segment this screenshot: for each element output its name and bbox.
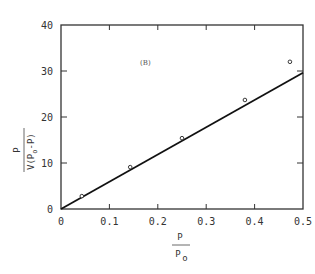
y-axis-label: P V(Po-P)	[12, 128, 39, 172]
data-point-marker	[128, 165, 132, 169]
plot-border	[61, 25, 303, 209]
panel-label: (B)	[140, 59, 151, 67]
y-label-denominator-prefix: V(P	[26, 153, 36, 170]
x-tick-label: 0.2	[149, 216, 167, 227]
x-tick-label: 0.4	[246, 216, 264, 227]
y-label-denominator-suffix: -P)	[26, 133, 36, 149]
data-point-marker	[180, 136, 184, 140]
y-axis-ticks: 010203040	[41, 20, 303, 215]
x-label-numerator: P	[177, 232, 183, 242]
fit-line	[61, 73, 303, 209]
x-axis-ticks: 00.10.20.30.40.5	[58, 25, 312, 227]
y-label-denominator: V(Po-P)	[26, 133, 39, 170]
data-points	[80, 60, 292, 198]
x-tick-label: 0	[58, 216, 64, 227]
x-label-denominator-sub: o	[182, 253, 187, 263]
regression-line	[61, 73, 303, 209]
x-axis-label: P P o	[172, 232, 190, 263]
data-point-marker	[80, 194, 84, 198]
x-tick-label: 0.5	[294, 216, 312, 227]
x-tick-label: 0.3	[197, 216, 215, 227]
chart: 00.10.20.30.40.5 010203040 (B) P P o P V…	[0, 0, 315, 274]
y-tick-label: 30	[41, 66, 53, 77]
y-tick-label: 0	[47, 204, 53, 215]
x-tick-label: 0.1	[100, 216, 118, 227]
x-label-denominator: P	[175, 249, 181, 259]
y-tick-label: 10	[41, 158, 53, 169]
y-label-numerator: P	[12, 147, 22, 153]
y-tick-label: 40	[41, 20, 53, 31]
data-point-marker	[288, 60, 292, 64]
plot-frame	[61, 25, 303, 209]
data-point-marker	[243, 98, 247, 102]
y-tick-label: 20	[41, 112, 53, 123]
